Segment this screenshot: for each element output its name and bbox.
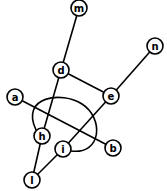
node-n: n <box>147 38 163 54</box>
node-d: d <box>53 62 69 78</box>
node-i: i <box>55 141 71 157</box>
edges-layer <box>15 8 155 180</box>
node-label: h <box>38 131 45 142</box>
node-label: e <box>108 91 115 102</box>
node-label: i <box>61 144 64 155</box>
node-h: h <box>34 128 50 144</box>
node-b: b <box>105 140 121 156</box>
node-m: m <box>71 0 87 16</box>
graph-diagram: mndeahibl <box>0 0 167 191</box>
node-label: b <box>109 143 116 154</box>
node-label: l <box>30 175 33 186</box>
edge-e-i <box>63 96 111 149</box>
node-label: n <box>151 41 158 52</box>
node-label: a <box>12 92 19 103</box>
node-l: l <box>24 172 40 188</box>
node-label: m <box>74 3 84 14</box>
nodes-layer: mndeahibl <box>7 0 163 188</box>
edge-m-d <box>61 8 79 70</box>
node-label: d <box>57 65 64 76</box>
edge-e-n <box>111 46 155 96</box>
edge-d-h <box>42 70 61 136</box>
node-e: e <box>103 88 119 104</box>
node-a: a <box>7 89 23 105</box>
